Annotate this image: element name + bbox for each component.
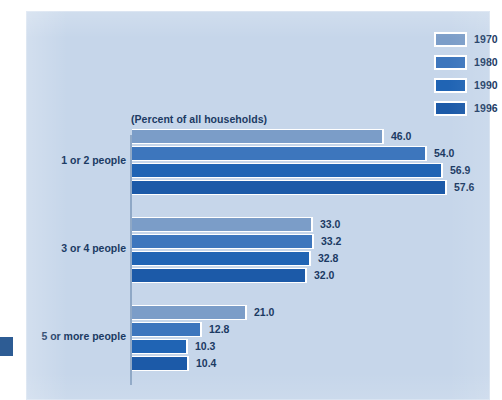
bar-value-label: 57.6 [454,181,474,193]
legend-item[interactable]: 1990 [434,76,502,94]
legend-item[interactable]: 1980 [434,53,502,71]
bar-value-label: 56.9 [450,164,470,176]
chart-subtitle: (Percent of all households) [131,113,267,125]
bar-1990[interactable] [132,163,443,178]
legend-label: 1990 [474,79,498,91]
bar-1970[interactable] [132,305,247,320]
bar-value-label: 32.8 [318,252,338,264]
bar-value-label: 33.2 [321,235,341,247]
bar-value-label: 46.0 [391,130,411,142]
bar-1996[interactable] [132,180,447,195]
bar-1990[interactable] [132,251,311,266]
legend-swatch-1990 [434,78,467,93]
bar-value-label: 12.8 [209,323,229,335]
bar-1990[interactable] [132,339,188,354]
bar-1980[interactable] [132,146,427,161]
category-label: 1 or 2 people [61,154,126,166]
legend-swatch-1970 [434,32,467,47]
legend-swatch-1996 [434,101,467,116]
legend-label: 1980 [474,56,498,68]
plot-area: 1 or 2 people 46.0 54.0 56.9 [26,129,490,391]
legend-item[interactable]: 1970 [434,30,502,48]
bar-1970[interactable] [132,129,384,144]
bar-value-label: 54.0 [434,147,454,159]
chart-legend: 1970 1980 1990 1996 [434,30,502,122]
bar-1970[interactable] [132,217,313,232]
bar-1980[interactable] [132,322,202,337]
legend-item[interactable]: 1996 [434,99,502,117]
bar-1996[interactable] [132,268,307,283]
bar-1980[interactable] [132,234,314,249]
page-edge-mark [0,337,13,356]
legend-swatch-1980 [434,55,467,70]
legend-label: 1996 [474,102,498,114]
bar-value-label: 21.0 [254,306,274,318]
category-label: 3 or 4 people [61,242,126,254]
chart-panel: 1970 1980 1990 1996 (Percent of all hous… [26,11,490,400]
bar-value-label: 10.4 [196,357,216,369]
bar-value-label: 33.0 [320,218,340,230]
bar-value-label: 10.3 [195,340,215,352]
bar-1996[interactable] [132,356,189,371]
bar-value-label: 32.0 [314,269,334,281]
legend-label: 1970 [474,33,498,45]
category-label: 5 or more people [41,330,126,342]
